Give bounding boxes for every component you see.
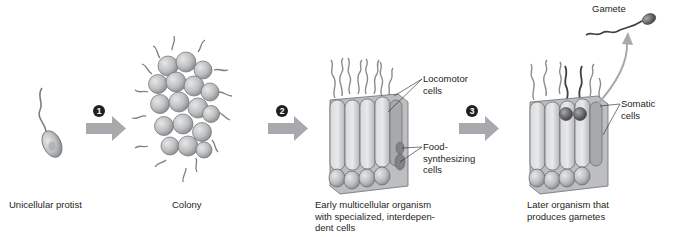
diagram-canvas: 1 2 3 Locomotor cells Food- synthesizing… (0, 0, 676, 237)
locomotor-cells-label: Locomotor cells (423, 73, 468, 96)
somatic-cells-label: Somatic cells (621, 98, 655, 121)
arrow-step-2 (268, 116, 308, 141)
food-synthesizing-cells-label: Food- synthesizing cells (423, 141, 475, 176)
arrow-step-1 (86, 116, 126, 141)
gamete-label: Gamete (592, 3, 626, 15)
caption-colony: Colony (172, 199, 202, 211)
caption-unicellular-protist: Unicellular protist (9, 199, 82, 211)
caption-later-organism: Later organism that produces gametes (527, 199, 609, 222)
colony-cells (149, 52, 220, 158)
step-1-badge: 1 (93, 105, 105, 117)
step-3-badge: 3 (466, 105, 478, 117)
gamete-release-arrow (596, 32, 633, 106)
step-2-badge: 2 (276, 105, 288, 117)
gamete-illustration (586, 12, 657, 35)
caption-early-multicellular: Early multicellular organism with specia… (315, 199, 435, 234)
early-organism-cells (329, 94, 408, 194)
arrow-step-3 (459, 116, 499, 141)
early-organism-flagella (331, 58, 393, 98)
protist-illustration (38, 88, 66, 160)
